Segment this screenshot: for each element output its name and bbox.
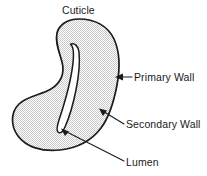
fiber-cell-diagram: Cuticle Primary Wall Secondary Wall Lume… bbox=[0, 0, 207, 176]
label-primary-wall: Primary Wall bbox=[134, 71, 194, 83]
label-secondary-wall: Secondary Wall bbox=[126, 118, 201, 130]
label-cuticle: Cuticle bbox=[62, 4, 95, 16]
diagram-canvas: Cuticle Primary Wall Secondary Wall Lume… bbox=[0, 0, 207, 176]
label-lumen: Lumen bbox=[126, 156, 159, 168]
